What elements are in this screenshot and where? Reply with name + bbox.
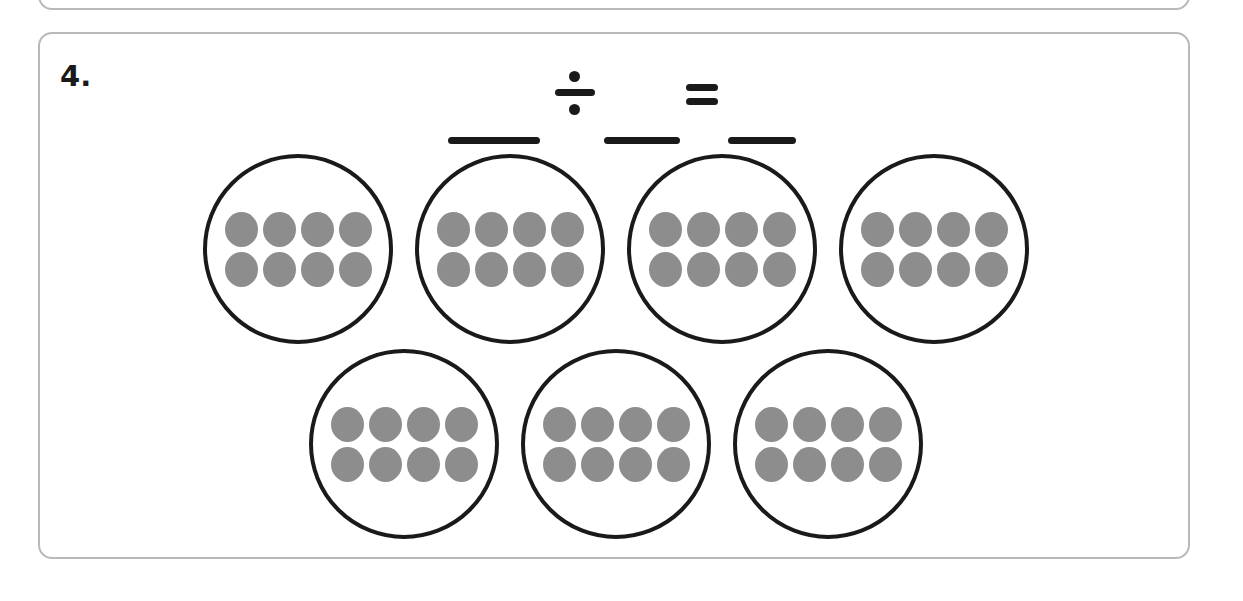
problem-number: 4. <box>60 62 91 91</box>
counter-dot <box>937 252 970 287</box>
counter-dot <box>619 407 652 442</box>
counter-dot <box>649 212 682 247</box>
counter-dot <box>225 212 258 247</box>
counter-dot <box>225 252 258 287</box>
counter-dot <box>763 212 796 247</box>
counter-dot <box>869 407 902 442</box>
division-dot-top <box>569 71 580 82</box>
counter-dot <box>861 252 894 287</box>
counter-group-circle <box>733 349 923 539</box>
division-bar <box>555 89 595 96</box>
equals-bar-top <box>686 84 718 91</box>
problem-card: 4. <box>38 32 1190 559</box>
counter-dot <box>369 407 402 442</box>
counter-dot <box>263 252 296 287</box>
counter-group-circle <box>415 154 605 344</box>
counter-dot <box>975 212 1008 247</box>
counter-grid <box>753 405 903 483</box>
counter-dot <box>513 212 546 247</box>
counter-grid <box>859 210 1009 288</box>
counter-dot <box>543 407 576 442</box>
counter-grid <box>647 210 797 288</box>
counter-dot <box>551 212 584 247</box>
counter-dot <box>369 447 402 482</box>
worksheet-page: 4. <box>0 0 1243 601</box>
division-dot-bottom <box>569 104 580 115</box>
counter-dot <box>657 407 690 442</box>
counter-dot <box>793 407 826 442</box>
counter-dot <box>445 407 478 442</box>
counter-dot <box>763 252 796 287</box>
counter-dot <box>687 212 720 247</box>
counter-dot <box>551 252 584 287</box>
counter-dot <box>475 212 508 247</box>
counter-dot <box>899 252 932 287</box>
counter-group-circle <box>521 349 711 539</box>
counter-dot <box>725 212 758 247</box>
counter-dot <box>301 212 334 247</box>
counter-dot <box>581 407 614 442</box>
counter-grid <box>435 210 585 288</box>
division-icon <box>552 68 598 116</box>
counter-dot <box>755 407 788 442</box>
counter-dot <box>263 212 296 247</box>
counter-grid <box>329 405 479 483</box>
counter-dot <box>331 447 364 482</box>
counter-dot <box>301 252 334 287</box>
counter-group-circle <box>203 154 393 344</box>
counter-dot <box>793 447 826 482</box>
counter-dot <box>339 212 372 247</box>
counter-group-circle <box>839 154 1029 344</box>
equals-bar-bottom <box>686 98 718 105</box>
counter-dot <box>657 447 690 482</box>
counter-dot <box>445 447 478 482</box>
counter-dot <box>437 252 470 287</box>
division-equation <box>440 64 820 144</box>
counter-grid <box>541 405 691 483</box>
counter-dot <box>437 212 470 247</box>
counter-dot <box>831 447 864 482</box>
counter-group-circle <box>309 349 499 539</box>
counter-dot <box>975 252 1008 287</box>
previous-problem-box-edge <box>38 0 1190 10</box>
counter-group-circle <box>627 154 817 344</box>
equation-blank-divisor[interactable] <box>604 137 680 144</box>
counter-dot <box>649 252 682 287</box>
equation-blank-dividend[interactable] <box>448 137 540 144</box>
counter-dot <box>687 252 720 287</box>
group-row-bottom <box>40 349 1192 541</box>
counter-groups-area <box>40 154 1192 554</box>
counter-dot <box>755 447 788 482</box>
counter-dot <box>513 252 546 287</box>
counter-dot <box>407 407 440 442</box>
counter-dot <box>475 252 508 287</box>
equals-icon <box>686 82 722 112</box>
counter-dot <box>869 447 902 482</box>
counter-dot <box>407 447 440 482</box>
counter-dot <box>581 447 614 482</box>
counter-dot <box>331 407 364 442</box>
counter-dot <box>861 212 894 247</box>
group-row-top <box>40 154 1192 346</box>
counter-dot <box>543 447 576 482</box>
counter-dot <box>899 212 932 247</box>
counter-grid <box>223 210 373 288</box>
counter-dot <box>937 212 970 247</box>
counter-dot <box>339 252 372 287</box>
counter-dot <box>619 447 652 482</box>
counter-dot <box>831 407 864 442</box>
equation-blank-quotient[interactable] <box>728 137 796 144</box>
counter-dot <box>725 252 758 287</box>
